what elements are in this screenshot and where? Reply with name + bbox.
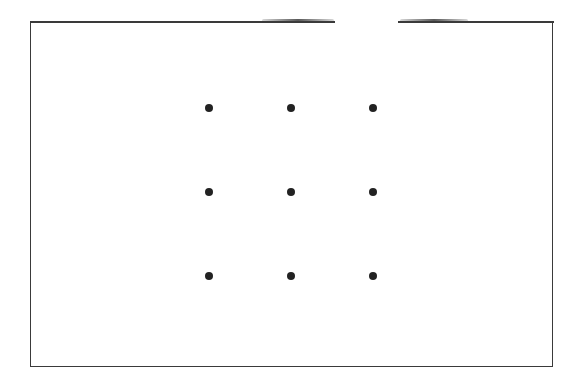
grid-dot-r2-c3: [369, 188, 377, 196]
grid-dot-r2-c1: [205, 188, 213, 196]
grid-dot-r2-c2: [287, 188, 295, 196]
grid-dot-r3-c1: [205, 272, 213, 280]
grid-dot-r3-c2: [287, 272, 295, 280]
frame-top-smudge-left: [262, 19, 334, 22]
grid-dot-r3-c3: [369, 272, 377, 280]
grid-dot-r1-c2: [287, 104, 295, 112]
grid-dot-r1-c3: [369, 104, 377, 112]
frame-top-smudge-right: [400, 19, 468, 22]
grid-dot-r1-c1: [205, 104, 213, 112]
